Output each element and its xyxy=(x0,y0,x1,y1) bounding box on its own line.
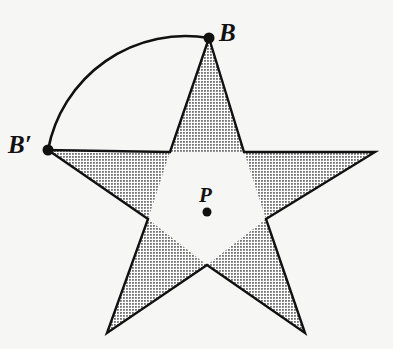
vertex-label-B-prime: B′ xyxy=(8,132,32,157)
star-diagram-canvas xyxy=(0,0,393,349)
figure-container: B B′ P xyxy=(0,0,393,349)
dot-B xyxy=(204,33,215,44)
dot-P xyxy=(203,208,212,217)
vertex-label-B: B xyxy=(219,20,236,45)
center-label-P: P xyxy=(199,185,212,206)
dot-B-prime xyxy=(43,145,54,156)
